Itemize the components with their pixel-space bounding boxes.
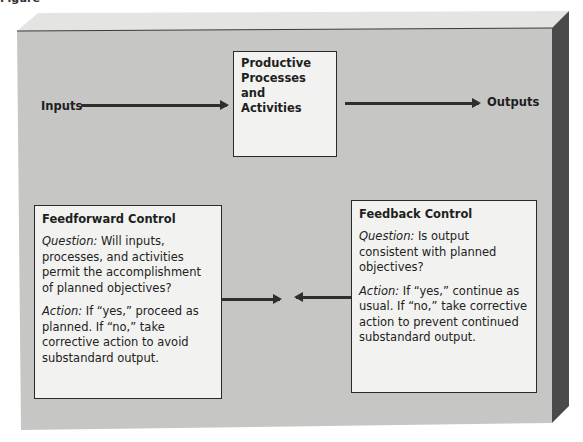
feedforward-arrow [222, 298, 280, 301]
feedforward-question: Question: Will inputs, processes, and ac… [42, 234, 214, 296]
outputs-arrow [345, 102, 479, 105]
feedback-title: Feedback Control [359, 207, 529, 222]
feedback-arrow [296, 296, 351, 299]
feedforward-question-label: Question: [42, 234, 97, 248]
inputs-arrow [81, 104, 227, 107]
feedforward-box: Feedforward Control Question: Will input… [34, 205, 222, 399]
inputs-label: Inputs [41, 99, 82, 113]
process-box: Productive Processes and Activities [233, 51, 337, 157]
feedback-question: Question: Is output consistent with plan… [359, 229, 529, 276]
feedback-box: Feedback Control Question: Is output con… [351, 200, 537, 393]
feedforward-action: Action: If “yes,” proceed as planned. If… [42, 304, 214, 366]
feedforward-title: Feedforward Control [42, 212, 214, 227]
feedback-action-label: Action: [359, 284, 399, 298]
process-title-line2: Processes and [241, 71, 329, 101]
feedback-action: Action: If “yes,” continue as usual. If … [359, 284, 529, 346]
outputs-label: Outputs [487, 95, 539, 109]
feedback-question-label: Question: [359, 229, 414, 243]
process-title-line3: Activities [241, 101, 329, 116]
feedforward-action-label: Action: [42, 304, 82, 318]
process-title-line1: Productive [241, 56, 329, 71]
